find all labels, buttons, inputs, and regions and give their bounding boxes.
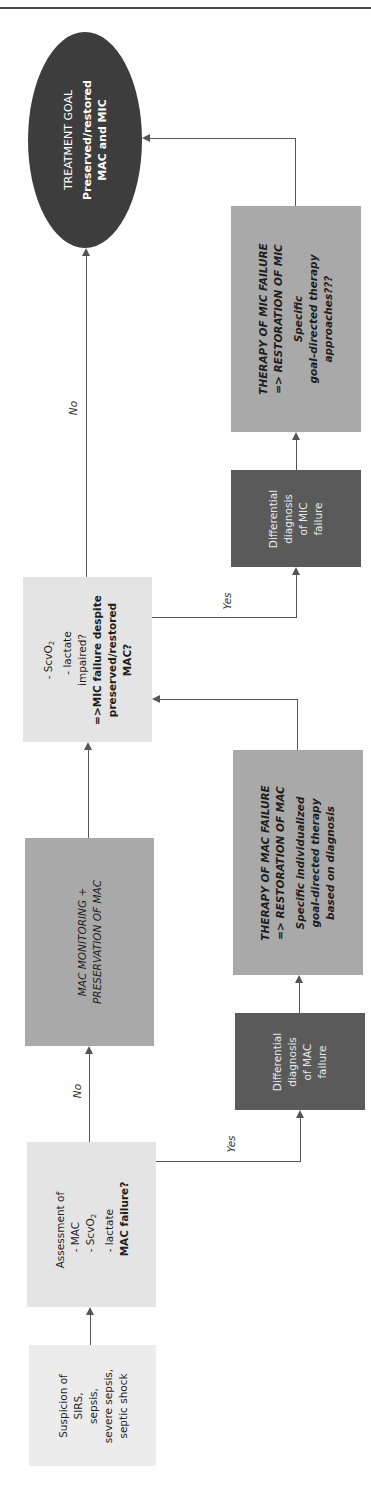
mac-differential-line: diagnosis — [285, 1032, 300, 1090]
mic-therapy-body: goal-directed therapy — [306, 243, 321, 395]
mic-question: MAC? — [120, 595, 135, 725]
arrow-head-icon — [292, 432, 300, 440]
arrow-head-icon — [292, 567, 300, 575]
connector-mac-no — [89, 1054, 90, 1142]
arrow-head-icon — [295, 975, 303, 983]
mic-question: preserved/restored — [105, 595, 120, 725]
goal-body-line: Preserved/restored — [80, 80, 95, 200]
mic-question: =>MIC failure despite — [90, 595, 105, 725]
connector-mac-yes-v — [300, 1118, 301, 1162]
mac-monitoring-node: MAC MONITORING + PRESERVATION OF MAC — [25, 838, 154, 1046]
goal-title: TREATMENT GOAL — [61, 80, 76, 200]
mic-assessment-line: - lactate — [60, 595, 75, 725]
mac-assessment-line: - MAC — [67, 1181, 82, 1268]
connector-mac-diff-to-therapy — [299, 983, 300, 1013]
connector-mic-yes-v — [296, 575, 297, 618]
suspicion-line: severe sepsis, — [100, 1368, 115, 1442]
treatment-goal-node: TREATMENT GOAL Preserved/restored MAC an… — [28, 32, 142, 248]
mic-assessment-node: - ScvO2 - lactate impaired? =>MIC failur… — [23, 577, 152, 742]
arrow-head-icon — [85, 1046, 93, 1054]
mac-assessment-node: Assessment of - MAC - ScvO2 - lactate MA… — [27, 1142, 156, 1307]
suspicion-line: septic shock — [115, 1368, 130, 1442]
mic-differential-node: Differential diagnosis of MIC failure — [231, 470, 361, 567]
mac-therapy-title: => RESTORATION OF MAC — [273, 785, 288, 940]
mic-differential-line: of MIC — [296, 489, 311, 547]
mac-monitoring-line: MAC MONITORING + — [75, 880, 90, 1004]
suspicion-node: Suspicion of SIRS, sepsis, severe sepsis… — [29, 1345, 156, 1466]
connector-mac-therapy-up — [297, 699, 298, 750]
connector-mic-yes-h — [152, 617, 297, 618]
mic-differential-line: failure — [311, 489, 326, 547]
mic-therapy-body: Specific — [291, 243, 306, 395]
edge-label-mac-no: No — [71, 1084, 83, 1098]
arrow-head-icon — [296, 1110, 304, 1118]
connector-mic-therapy-left — [150, 138, 296, 139]
connector-mic-diff-to-therapy — [296, 440, 297, 470]
edge-label-mac-yes: Yes — [225, 1135, 237, 1152]
connector-start-to-assessment — [90, 1315, 91, 1345]
mic-differential-line: diagnosis — [281, 489, 296, 547]
goal-body-line: MAC and MIC — [95, 80, 110, 200]
mac-assessment-line: - lactate — [101, 1181, 116, 1268]
connector-mic-no — [86, 256, 87, 577]
mic-therapy-title: THERAPY OF MIC FAILURE — [256, 243, 271, 395]
arrow-head-icon — [152, 695, 160, 703]
arrow-head-icon — [84, 742, 92, 750]
mac-differential-line: Differential — [270, 1032, 285, 1090]
edge-label-mic-yes: Yes — [221, 592, 233, 609]
suspicion-line: SIRS, — [70, 1368, 85, 1442]
mac-differential-line: of MAC — [300, 1032, 315, 1090]
mac-therapy-title: THERAPY OF MAC FAILURE — [258, 785, 273, 940]
mac-therapy-body: based on diagnosis — [323, 785, 338, 940]
connector-monitoring-to-mic — [88, 750, 89, 838]
connector-mac-yes-h — [156, 1161, 301, 1162]
top-rule — [0, 7, 371, 9]
mac-monitoring-line: PRESERVATION OF MAC — [90, 880, 105, 1004]
connector-mic-therapy-up — [295, 138, 296, 206]
mac-differential-node: Differential diagnosis of MAC failure — [235, 1013, 365, 1110]
mac-question: MAC failure? — [116, 1181, 131, 1268]
mac-assessment-line: - ScvO2 — [82, 1181, 101, 1268]
arrow-head-icon — [142, 134, 150, 142]
mac-differential-line: failure — [315, 1032, 330, 1090]
arrow-head-icon — [86, 1307, 94, 1315]
mic-therapy-body: approaches??? — [321, 243, 336, 395]
connector-mac-therapy-left — [160, 699, 298, 700]
mic-assessment-line: impaired? — [75, 595, 90, 725]
suspicion-line: Suspicion of — [55, 1368, 70, 1442]
mic-assessment-line: - ScvO2 — [41, 595, 60, 725]
edge-label-mic-no: No — [67, 401, 79, 415]
mic-therapy-title: => RESTORATION OF MIC — [271, 243, 286, 395]
mac-therapy-node: THERAPY OF MAC FAILURE => RESTORATION OF… — [233, 750, 363, 975]
mic-differential-line: Differential — [266, 489, 281, 547]
mic-therapy-node: THERAPY OF MIC FAILURE => RESTORATION OF… — [231, 206, 361, 432]
arrow-head-icon — [82, 248, 90, 256]
mac-assessment-line: Assessment of — [52, 1181, 67, 1268]
suspicion-line: sepsis, — [85, 1368, 100, 1442]
mac-therapy-body: Specific individualized — [293, 785, 308, 940]
mac-therapy-body: goal-directed therapy — [308, 785, 323, 940]
